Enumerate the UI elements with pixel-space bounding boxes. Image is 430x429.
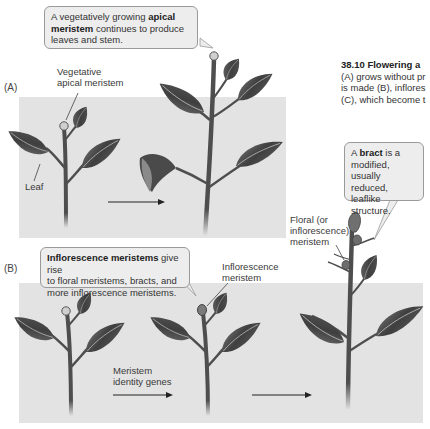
label-vegetative-meristem: Vegetative apical meristem	[57, 66, 124, 88]
pointer-leaf	[34, 164, 40, 181]
bubble-tail-a	[200, 38, 213, 48]
label-meristem-identity-genes: Meristem identity genes	[113, 365, 172, 387]
caption-line: (C), which become t	[341, 94, 425, 106]
pointer-floral-meristem	[336, 245, 344, 260]
arrow-b1	[113, 392, 173, 398]
arrow-b2	[252, 392, 312, 398]
figure-caption: 38.10 Flowering a (A) grows without pr i…	[341, 59, 425, 105]
plant-b1	[10, 290, 129, 416]
callout-apical-meristem: A vegetatively growing apical meristem c…	[44, 6, 198, 49]
caption-title: 38.10 Flowering a	[341, 59, 425, 71]
label-floral-meristem: Floral (or inflorescence) meristem	[290, 214, 349, 247]
panel-label-a: (A)	[4, 82, 17, 93]
callout-inflorescence-meristems: Inflorescence meristems give rise to flo…	[40, 247, 190, 288]
term-meristem: meristem	[51, 23, 93, 34]
arrow-a	[108, 199, 165, 205]
plant-b2	[146, 290, 265, 416]
term-apical: apical	[148, 11, 175, 22]
plant-a1	[4, 104, 125, 228]
callout-bract: A bract is a modified, usually reduced, …	[344, 142, 424, 201]
term-bract: bract	[359, 147, 382, 158]
label-inflorescence-meristem: Inflorescence meristem	[222, 261, 279, 283]
term-inflorescence-meristems: Inflorescence meristems	[47, 252, 158, 263]
label-leaf: Leaf	[25, 181, 44, 192]
panel-label-b: (B)	[4, 263, 17, 274]
caption-line: is made (B), inflores	[341, 82, 425, 94]
caption-line: (A) grows without pr	[341, 71, 425, 83]
plant-a2	[140, 52, 287, 236]
